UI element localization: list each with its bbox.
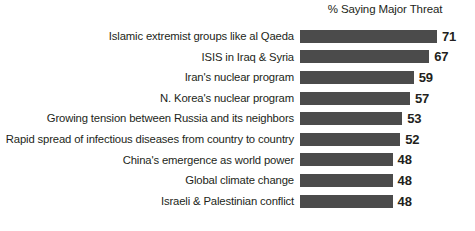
bar-value-label: 53 [407, 112, 421, 125]
bar-value-label: 48 [398, 174, 412, 187]
bar-value-label: 71 [442, 30, 456, 43]
bar [300, 71, 414, 84]
chart-row: Islamic extremist groups like al Qaeda71 [0, 26, 475, 47]
bar-category-label: Islamic extremist groups like al Qaeda [109, 26, 294, 47]
horizontal-bar-chart: % Saying Major Threat Islamic extremist … [0, 0, 475, 231]
bar-category-label: Global climate change [185, 170, 294, 191]
bar-area: 48 [300, 150, 412, 171]
bar [300, 133, 400, 146]
bar-value-label: 48 [398, 195, 412, 208]
bar [300, 30, 437, 43]
bar [300, 50, 429, 63]
bar-area: 52 [300, 129, 419, 150]
bar [300, 195, 393, 208]
bar-category-label: Israeli & Palestinian conflict [161, 191, 294, 212]
chart-row: N. Korea's nuclear program57 [0, 88, 475, 109]
bar-category-label: ISIS in Iraq & Syria [202, 47, 294, 68]
column-header-label: % Saying Major Threat [300, 3, 470, 15]
chart-rows: Islamic extremist groups like al Qaeda71… [0, 26, 475, 211]
bar [300, 153, 393, 166]
bar-category-label: Iran's nuclear program [185, 67, 294, 88]
bar-area: 57 [300, 88, 429, 109]
bar-value-label: 48 [398, 153, 412, 166]
bar-area: 67 [300, 47, 448, 68]
bar [300, 112, 402, 125]
chart-row: Growing tension between Russia and its n… [0, 108, 475, 129]
bar-category-label: Growing tension between Russia and its n… [47, 108, 294, 129]
bar-category-label: China's emergence as world power [123, 150, 294, 171]
bar-area: 59 [300, 67, 433, 88]
chart-row: ISIS in Iraq & Syria67 [0, 47, 475, 68]
chart-row: China's emergence as world power48 [0, 150, 475, 171]
chart-row: Iran's nuclear program59 [0, 67, 475, 88]
bar-area: 53 [300, 108, 421, 129]
bar-area: 48 [300, 170, 412, 191]
chart-row: Global climate change48 [0, 170, 475, 191]
bar-value-label: 59 [419, 71, 433, 84]
bar [300, 92, 410, 105]
bar-category-label: Rapid spread of infectious diseases from… [6, 129, 294, 150]
bar [300, 174, 393, 187]
chart-row: Israeli & Palestinian conflict48 [0, 191, 475, 212]
bar-category-label: N. Korea's nuclear program [160, 88, 294, 109]
bar-area: 71 [300, 26, 456, 47]
bar-value-label: 67 [434, 50, 448, 63]
bar-value-label: 57 [415, 92, 429, 105]
chart-row: Rapid spread of infectious diseases from… [0, 129, 475, 150]
bar-area: 48 [300, 191, 412, 212]
bar-value-label: 52 [405, 133, 419, 146]
